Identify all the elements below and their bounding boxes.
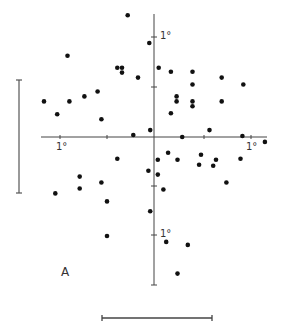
data-point [77, 186, 82, 191]
data-point [136, 75, 141, 80]
data-point [219, 99, 224, 104]
data-point [190, 99, 195, 104]
data-point [219, 75, 224, 80]
data-point [224, 180, 229, 185]
data-point [161, 187, 166, 192]
data-point [207, 128, 212, 133]
data-point [156, 158, 161, 163]
data-point [214, 158, 219, 163]
data-point [156, 65, 161, 70]
data-point [55, 112, 60, 117]
data-point [99, 117, 104, 122]
data-point [199, 153, 204, 158]
data-point [99, 180, 104, 185]
y-tick-label-top: 1° [160, 30, 171, 41]
data-point [169, 111, 174, 116]
data-point [67, 99, 72, 104]
data-point [197, 162, 202, 167]
data-point [42, 99, 47, 104]
data-point [115, 65, 120, 70]
data-point [174, 94, 179, 99]
x-tick-label-left: 1° [56, 141, 67, 152]
panel-label: A [61, 265, 69, 279]
data-point [190, 82, 195, 87]
y-axis [151, 14, 157, 285]
data-point [175, 158, 180, 163]
data-point [105, 199, 110, 204]
data-point [174, 99, 179, 104]
data-point [240, 134, 245, 139]
data-point [148, 209, 153, 214]
data-point [175, 271, 180, 276]
data-point [146, 168, 151, 173]
data-point [105, 234, 110, 239]
data-point [147, 41, 152, 46]
data-point [190, 69, 195, 74]
data-point [125, 13, 130, 18]
data-point [211, 163, 216, 168]
data-point [148, 128, 153, 133]
y-tick-label-bottom: 1° [160, 228, 171, 239]
data-point [156, 172, 161, 177]
data-point [180, 135, 185, 140]
data-point [164, 240, 169, 245]
data-point [186, 243, 191, 248]
data-point [120, 70, 125, 75]
x-tick-label-right: 1° [246, 141, 257, 152]
data-point [166, 151, 171, 156]
data-point [241, 82, 246, 87]
data-point [190, 104, 195, 109]
data-point [238, 157, 243, 162]
data-point [169, 69, 174, 74]
horizontal-scale-bar [102, 315, 212, 321]
data-point [53, 191, 58, 196]
data-point [77, 174, 82, 179]
vertical-scale-bar [16, 80, 22, 193]
scatter-plot [0, 0, 284, 336]
data-point [115, 157, 120, 162]
data-point [95, 89, 100, 94]
data-point [82, 94, 87, 99]
data-point [120, 65, 125, 70]
data-point [65, 54, 70, 59]
data-point [131, 133, 136, 138]
data-point [263, 140, 268, 145]
